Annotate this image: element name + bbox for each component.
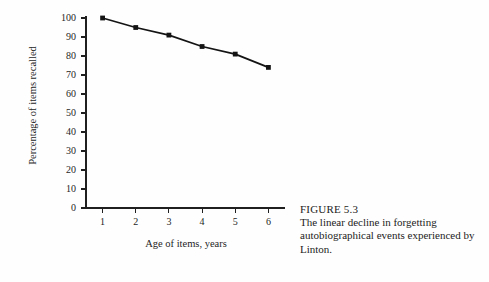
data-point-marker [266,65,271,70]
data-series-line [103,18,269,67]
figure-caption-title: FIGURE 5.3 [300,203,482,216]
y-tick-label: 60 [50,89,76,99]
chart-figure: 0102030405060708090100 123456 Percentage… [0,0,300,282]
x-axis-ticks [103,208,269,213]
figure-page: 0102030405060708090100 123456 Percentage… [0,0,489,282]
y-axis-label: Percentage of items recalled [27,21,38,191]
y-tick-label: 70 [50,70,76,80]
data-point-marker [167,33,172,38]
figure-caption-body: The linear decline in forgetting autobio… [300,216,482,256]
y-axis-ticks [81,18,86,208]
x-tick-label: 5 [228,217,242,227]
x-tick-label: 6 [261,217,275,227]
y-tick-label: 30 [50,146,76,156]
data-point-marker [200,44,205,49]
data-point-marker [233,52,238,57]
x-tick-label: 2 [129,217,143,227]
x-tick-label: 3 [162,217,176,227]
y-tick-label: 0 [50,203,76,213]
y-tick-label: 80 [50,51,76,61]
y-tick-label: 50 [50,108,76,118]
x-tick-label: 1 [96,217,110,227]
data-point-marker [100,16,105,21]
data-point-markers [100,16,271,70]
y-tick-label: 20 [50,165,76,175]
x-tick-label: 4 [195,217,209,227]
data-point-marker [133,25,138,30]
y-tick-label: 10 [50,184,76,194]
y-tick-label: 100 [50,13,76,23]
chart-axes [86,16,285,208]
figure-caption: FIGURE 5.3 The linear decline in forgett… [300,203,482,256]
y-tick-label: 40 [50,127,76,137]
y-tick-label: 90 [50,32,76,42]
x-axis-label: Age of items, years [86,238,286,249]
